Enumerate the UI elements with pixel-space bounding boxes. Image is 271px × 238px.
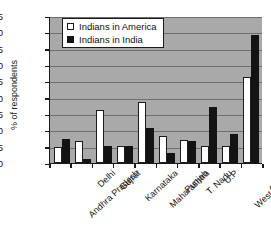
bar-america: [222, 146, 230, 163]
x-tick-label: U.P: [222, 168, 240, 186]
bar-america: [243, 77, 251, 163]
x-tick-label: T. Nadu: [205, 168, 235, 196]
y-tick-label: 0: [0, 159, 3, 169]
x-tick-label: Maharashtra: [167, 168, 211, 210]
y-tick-label: 10: [0, 126, 3, 136]
y-axis-title: % of respondents: [9, 30, 19, 160]
bar-america: [159, 136, 167, 163]
x-tick-label: Others: [268, 168, 271, 194]
y-tick-label: 35: [0, 45, 3, 55]
y-tick-label: 25: [0, 77, 3, 87]
bar-india: [188, 141, 196, 163]
x-tick-label: Andhra Pradesh: [86, 168, 140, 220]
bar-group: [180, 17, 196, 163]
x-tick-label: West Bengal: [253, 168, 271, 210]
x-tick-mark: [70, 164, 72, 168]
legend-label-india: Indians in India: [79, 35, 143, 45]
bar-india: [230, 134, 238, 163]
bar-america: [54, 147, 62, 163]
legend-label-america: Indians in America: [79, 22, 157, 32]
y-tick-label: 40: [0, 28, 3, 38]
x-tick-mark: [241, 164, 243, 168]
x-tick-mark: [134, 164, 136, 168]
x-tick-label: Gujrat: [118, 168, 143, 192]
bar-america: [180, 140, 188, 163]
x-tick-label: Punjab: [183, 168, 210, 194]
bar-america: [96, 110, 104, 163]
y-tick-label: 5: [0, 143, 3, 153]
x-tick-mark: [198, 164, 200, 168]
bar-america: [117, 146, 125, 163]
legend-swatch-america-icon: [67, 23, 74, 30]
x-axis-tick-marks: [49, 164, 262, 169]
x-tick-mark: [262, 164, 264, 168]
x-tick-label: Karnataka: [144, 168, 181, 203]
bar-america: [138, 102, 146, 163]
bar-america: [75, 141, 83, 163]
bar-india: [146, 128, 154, 163]
bar-chart-figure: % of respondents 454035302520151050 Andh…: [0, 0, 271, 238]
x-tick-mark: [113, 164, 115, 168]
x-tick-label: Delhi: [95, 168, 117, 189]
x-tick-mark: [219, 164, 221, 168]
legend-item-america: Indians in America: [67, 22, 157, 32]
bar-group: [222, 17, 238, 163]
bar-india: [167, 153, 175, 163]
bar-india: [62, 139, 70, 163]
y-tick-label: 30: [0, 61, 3, 71]
x-tick-mark: [177, 164, 179, 168]
y-tick-label: 15: [0, 110, 3, 120]
y-tick-label: 20: [0, 94, 3, 104]
x-tick-mark: [92, 164, 94, 168]
legend-swatch-india-icon: [67, 36, 74, 43]
x-tick-mark: [156, 164, 158, 168]
y-tick-label: 45: [0, 12, 3, 22]
bar-group: [201, 17, 217, 163]
bar-india: [251, 35, 259, 163]
chart-legend: Indians in America Indians in India: [62, 18, 164, 48]
bar-india: [209, 107, 217, 163]
legend-item-india: Indians in India: [67, 35, 157, 45]
bar-india: [104, 146, 112, 163]
bar-group: [243, 17, 259, 163]
bar-india: [83, 159, 91, 163]
bar-india: [125, 146, 133, 163]
x-tick-mark: [49, 164, 51, 168]
bar-america: [201, 146, 209, 163]
